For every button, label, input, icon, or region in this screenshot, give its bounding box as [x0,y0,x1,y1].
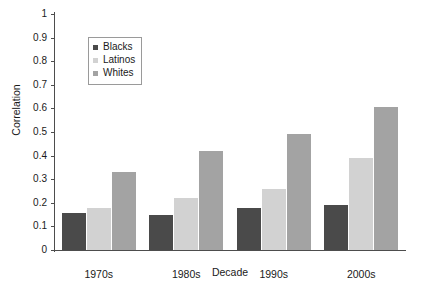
bar-chart: 00.10.20.30.40.50.60.70.80.91 Correlatio… [0,0,423,286]
bar-group: 2000s [324,14,398,250]
bar-blacks-1970s [62,213,86,250]
legend-swatch-icon [93,58,98,63]
y-tick-mark [51,250,55,251]
bar-group-bars [149,14,223,250]
y-axis-title: Correlation [10,60,22,160]
y-tick: 0.1 [0,226,55,227]
bar-latinos-1970s [87,208,111,250]
y-tick-label: 0.4 [33,149,47,162]
bar-group: 1990s [237,14,311,250]
legend: BlacksLatinosWhites [88,37,142,85]
legend-label: Blacks [103,41,132,53]
y-tick-label: 0.8 [33,54,47,67]
y-tick-label: 0.2 [33,196,47,209]
y-tick-label: 0.7 [33,78,47,91]
y-tick-label: 0.6 [33,101,47,114]
bar-whites-1970s [112,172,136,250]
y-tick: 0 [0,250,55,251]
legend-swatch-icon [93,71,98,76]
y-tick-label: 0.5 [33,125,47,138]
x-tick-label: 1990s [237,268,311,280]
y-tick: 0.6 [0,108,55,109]
bar-latinos-2000s [349,158,373,250]
legend-label: Whites [103,67,134,79]
y-tick-label: 0.3 [33,172,47,185]
bar-group-bars [237,14,311,250]
x-tick-label: 2000s [324,268,398,280]
bar-blacks-2000s [324,205,348,250]
y-axis-ticks: 00.10.20.30.40.50.60.70.80.91 [0,0,55,286]
legend-item-latinos: Latinos [93,54,135,66]
legend-item-blacks: Blacks [93,41,135,53]
y-tick: 0.5 [0,132,55,133]
y-tick: 0.2 [0,203,55,204]
y-tick: 0.9 [0,38,55,39]
x-tick-label: 1980s [149,268,223,280]
bar-whites-1990s [287,134,311,250]
bar-group-bars [324,14,398,250]
y-tick: 0.4 [0,156,55,157]
bar-whites-2000s [374,107,398,250]
legend-swatch-icon [93,45,98,50]
x-axis-line [54,250,406,251]
y-tick: 0.7 [0,85,55,86]
y-tick: 0.8 [0,61,55,62]
legend-item-whites: Whites [93,67,135,79]
y-tick: 0.3 [0,179,55,180]
bar-group: 1980s [149,14,223,250]
y-tick-label: 0.1 [33,219,47,232]
y-tick-label: 1 [41,7,47,20]
bar-latinos-1990s [262,189,286,250]
bar-blacks-1990s [237,208,261,250]
x-tick-label: 1970s [62,268,136,280]
bar-whites-1980s [199,151,223,250]
legend-label: Latinos [103,54,135,66]
y-tick: 1 [0,14,55,15]
bar-blacks-1980s [149,215,173,250]
y-tick-label: 0.9 [33,31,47,44]
bar-latinos-1980s [174,198,198,250]
y-tick-label: 0 [41,243,47,256]
